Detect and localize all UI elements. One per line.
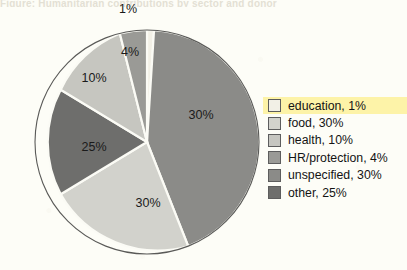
pie-chart-svg: 30% 30% 25% 10% 4% 1% bbox=[31, 18, 264, 266]
legend-item-food[interactable]: food, 30% bbox=[266, 114, 406, 131]
pie-label-hr-protection: 4% bbox=[121, 45, 139, 59]
pie-label-food: 30% bbox=[135, 196, 160, 210]
legend-swatch-education bbox=[268, 99, 281, 112]
legend-item-unspecified[interactable]: unspecified, 30% bbox=[266, 167, 406, 184]
legend-swatch-health bbox=[268, 134, 281, 147]
legend-item-hr-protection[interactable]: HR/protection, 4% bbox=[266, 149, 406, 166]
pie-chart: 30% 30% 25% 10% 4% 1% bbox=[31, 18, 264, 266]
legend-label-education: education, 1% bbox=[288, 100, 366, 112]
legend-label-other: other, 25% bbox=[288, 187, 347, 199]
pie-label-unspecified: 30% bbox=[188, 108, 213, 122]
legend-label-hr-protection: HR/protection, 4% bbox=[288, 152, 388, 164]
legend-label-food: food, 30% bbox=[288, 117, 343, 129]
legend-label-unspecified: unspecified, 30% bbox=[288, 169, 382, 181]
pie-callout-education: 1% bbox=[119, 2, 137, 16]
legend-label-health: health, 10% bbox=[288, 134, 353, 146]
legend-swatch-food bbox=[268, 117, 281, 130]
legend-swatch-other bbox=[268, 186, 281, 199]
cut-off-heading: Figure: Humanitarian contributions by se… bbox=[0, 0, 407, 7]
legend: education, 1% food, 30% health, 10% HR/p… bbox=[266, 97, 406, 201]
legend-item-education[interactable]: education, 1% bbox=[266, 97, 406, 114]
pie-label-other: 25% bbox=[81, 140, 106, 154]
legend-swatch-unspecified bbox=[268, 169, 281, 182]
pie-label-health: 10% bbox=[81, 71, 106, 85]
legend-swatch-hr-protection bbox=[268, 151, 281, 164]
legend-item-other[interactable]: other, 25% bbox=[266, 184, 406, 201]
legend-item-health[interactable]: health, 10% bbox=[266, 132, 406, 149]
